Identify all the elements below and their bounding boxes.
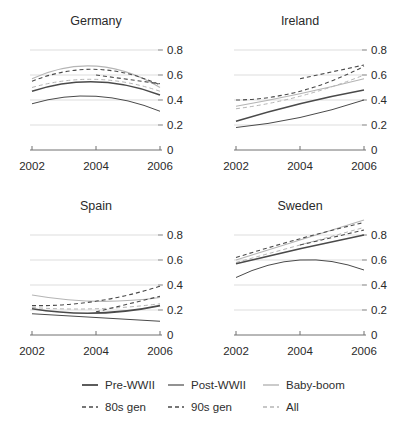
panel-spain: Spain00.20.40.60.8200220042006 <box>0 185 204 367</box>
legend-item-pre-wwii: Pre-WWII <box>82 379 168 391</box>
y-axis-label: 0.2 <box>167 304 183 316</box>
x-axis-label: 2004 <box>287 160 313 172</box>
chart-title: Ireland <box>281 14 319 28</box>
x-axis-label: 2002 <box>19 160 45 172</box>
y-axis-label: 0.4 <box>371 279 388 291</box>
y-axis-label: 0.4 <box>167 94 184 106</box>
series-line-pre-wwii <box>32 82 160 95</box>
legend-item-post-wwii: Post-WWII <box>168 379 263 391</box>
x-axis-label: 2004 <box>83 160 109 172</box>
y-axis-label: 0.4 <box>167 279 184 291</box>
y-axis-label: 0.6 <box>167 254 183 266</box>
legend-key-90s-gen <box>168 404 184 410</box>
x-axis-label: 2006 <box>351 160 377 172</box>
legend-key-baby-boom <box>263 382 279 388</box>
legend-item-all: All <box>263 401 383 413</box>
cohort-line-chart-figure: Germany00.20.40.60.8200220042006 Ireland… <box>0 0 409 445</box>
panel-ireland: Ireland00.20.40.60.8200220042006 <box>204 0 408 182</box>
series-line-80s-gen <box>32 286 160 305</box>
y-axis-label: 0.8 <box>371 44 387 56</box>
x-axis-label: 2006 <box>147 345 173 357</box>
x-axis-label: 2006 <box>351 345 377 357</box>
series-line-all <box>32 304 160 309</box>
legend-key-all <box>263 404 279 410</box>
x-axis-label: 2002 <box>19 345 45 357</box>
legend-key-80s-gen <box>82 404 98 410</box>
legend-key-pre-wwii <box>82 382 98 388</box>
series-line-post-wwii <box>32 314 160 322</box>
y-axis-label: 0.8 <box>371 229 387 241</box>
x-axis-label: 2002 <box>223 160 249 172</box>
y-axis-label: 0 <box>167 329 173 341</box>
legend-label-80s-gen: 80s gen <box>105 401 146 413</box>
y-axis-label: 0 <box>371 329 377 341</box>
x-axis-label: 2002 <box>223 345 249 357</box>
legend-item-baby-boom: Baby-boom <box>263 379 383 391</box>
legend-label-post-wwii: Post-WWII <box>191 379 246 391</box>
chart-panels-grid: Germany00.20.40.60.8200220042006 Ireland… <box>0 0 409 367</box>
legend-label-baby-boom: Baby-boom <box>286 379 345 391</box>
panel-sweden: Sweden00.20.40.60.8200220042006 <box>204 185 408 367</box>
x-axis-label: 2006 <box>147 160 173 172</box>
series-line-post-wwii <box>32 96 160 111</box>
legend-label-all: All <box>286 401 299 413</box>
y-axis-label: 0.2 <box>371 119 387 131</box>
y-axis-label: 0.2 <box>371 304 387 316</box>
chart-title: Sweden <box>277 199 322 213</box>
chart-title: Germany <box>70 14 122 28</box>
legend-label-90s-gen: 90s gen <box>191 401 232 413</box>
legend: Pre-WWIIPost-WWIIBaby-boom80s gen90s gen… <box>82 379 409 413</box>
y-axis-label: 0 <box>167 144 173 156</box>
legend-item-80s-gen: 80s gen <box>82 401 168 413</box>
panel-germany: Germany00.20.40.60.8200220042006 <box>0 0 204 182</box>
spain-chart: Spain00.20.40.60.8200220042006 <box>0 185 204 367</box>
y-axis-label: 0.6 <box>371 69 387 81</box>
y-axis-label: 0.8 <box>167 229 183 241</box>
series-line-baby-boom <box>236 79 364 107</box>
germany-chart: Germany00.20.40.60.8200220042006 <box>0 0 204 182</box>
series-line-pre-wwii <box>32 306 160 314</box>
series-line-post-wwii <box>236 260 364 278</box>
y-axis-label: 0.6 <box>371 254 387 266</box>
chart-title: Spain <box>80 199 112 213</box>
x-axis-label: 2004 <box>83 345 109 357</box>
series-line-90s-gen <box>300 65 364 79</box>
y-axis-label: 0.8 <box>167 44 183 56</box>
ireland-chart: Ireland00.20.40.60.8200220042006 <box>204 0 408 182</box>
legend-item-90s-gen: 90s gen <box>168 401 263 413</box>
sweden-chart: Sweden00.20.40.60.8200220042006 <box>204 185 408 367</box>
series-line-baby-boom <box>32 295 160 301</box>
y-axis-label: 0.4 <box>371 94 388 106</box>
series-line-baby-boom <box>236 220 364 260</box>
y-axis-label: 0.2 <box>167 119 183 131</box>
x-axis-label: 2004 <box>287 345 313 357</box>
y-axis-label: 0 <box>371 144 377 156</box>
y-axis-label: 0.6 <box>167 69 183 81</box>
legend-label-pre-wwii: Pre-WWII <box>105 379 155 391</box>
legend-key-post-wwii <box>168 382 184 388</box>
